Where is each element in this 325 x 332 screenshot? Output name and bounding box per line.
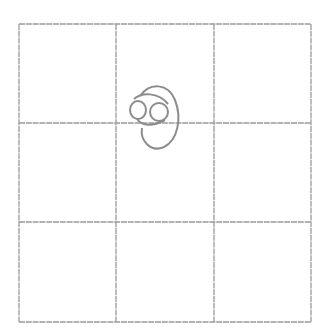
cell-r2-c0[interactable] <box>19 222 116 322</box>
cell-r1-c2[interactable] <box>214 123 311 222</box>
cell-r1-c1[interactable] <box>116 123 214 222</box>
cell-r0-c1[interactable] <box>116 24 214 123</box>
cell-r0-c2[interactable] <box>214 24 311 123</box>
cell-r2-c2[interactable] <box>214 222 311 322</box>
cell-r2-c1[interactable] <box>116 222 214 322</box>
cell-r0-c0[interactable] <box>19 24 116 123</box>
game-board <box>0 0 325 332</box>
cell-r1-c0[interactable] <box>19 123 116 222</box>
